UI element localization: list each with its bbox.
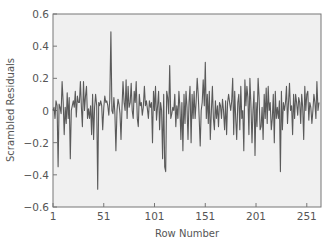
- x-tick-label: 1: [50, 210, 57, 222]
- x-tick-label: 251: [297, 210, 317, 222]
- y-axis: 0.60.40.20−0.2−0.4−0.6: [24, 8, 58, 213]
- line-chart: 0.60.40.20−0.2−0.4−0.6 151101151201251 R…: [0, 0, 332, 244]
- x-tick-label: 201: [246, 210, 266, 222]
- y-axis-title: Scrambled Residuals: [5, 58, 16, 162]
- y-tick-label: 0.2: [32, 72, 49, 84]
- x-tick-label: 101: [144, 210, 164, 222]
- y-tick-label: 0.4: [32, 40, 49, 52]
- x-tick-label: 51: [97, 210, 110, 222]
- y-tick-label: 0: [42, 105, 49, 117]
- x-tick-label: 151: [195, 210, 215, 222]
- y-tick-label: 0.6: [32, 8, 49, 20]
- y-tick-label: −0.6: [24, 201, 50, 213]
- y-tick-label: −0.4: [24, 169, 50, 181]
- x-axis-title: Row Number: [155, 228, 220, 239]
- y-tick-label: −0.2: [24, 137, 50, 149]
